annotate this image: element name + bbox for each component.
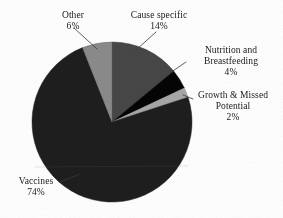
pie-label-growth-missed-potential: Growth & Missed Potential 2%: [185, 90, 281, 123]
pie-label-cause-specific: Cause specific 14%: [123, 10, 195, 32]
pie-label-nutrition-value: 4%: [188, 67, 274, 78]
pie-label-growth-line2: Potential: [185, 101, 281, 112]
pie-label-cause-specific-value: 14%: [123, 21, 195, 32]
pie-label-vaccines-value: 74%: [4, 187, 68, 198]
pie-label-growth-value: 2%: [185, 112, 281, 123]
pie-label-growth-line1: Growth & Missed: [185, 90, 281, 101]
pie-label-nutrition-breastfeeding: Nutrition and Breastfeeding 4%: [188, 45, 274, 78]
pie-chart-figure: Other 6% Cause specific 14% Nutrition an…: [0, 0, 283, 218]
pie-label-vaccines-name: Vaccines: [4, 176, 68, 187]
pie-label-vaccines: Vaccines 74%: [4, 176, 68, 198]
pie-label-nutrition-line2: Breastfeeding: [188, 56, 274, 67]
pie-label-cause-specific-name: Cause specific: [123, 10, 195, 21]
leader-line-nutrition: [170, 62, 186, 73]
pie-label-other: Other 6%: [50, 10, 96, 32]
pie-label-other-name: Other: [50, 10, 96, 21]
leader-line-cause-specific: [136, 32, 156, 50]
pie-label-nutrition-line1: Nutrition and: [188, 45, 274, 56]
pie-label-other-value: 6%: [50, 21, 96, 32]
